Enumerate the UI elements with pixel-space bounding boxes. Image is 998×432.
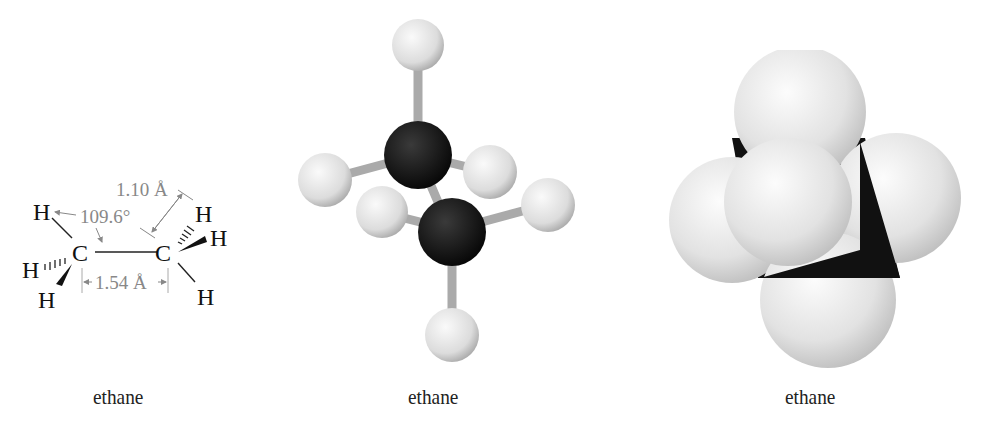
hydrogen-atom	[463, 145, 517, 199]
carbon-label-1: C	[72, 240, 88, 266]
ch-bond-length-label: 1.10 Å	[116, 179, 168, 200]
structural-formula-panel: H C C H H H H H 109.6° 1.10 Å 1.54 Å	[0, 160, 250, 320]
hydrogen-label: H	[210, 225, 227, 251]
caption-ball-and-stick: ethane	[408, 385, 458, 410]
bond-angle-label: 109.6°	[80, 206, 130, 227]
hydrogen-label: H	[38, 287, 55, 313]
hydrogen-atom	[521, 178, 575, 232]
hydrogen-label: H	[197, 284, 214, 310]
carbon-label-2: C	[155, 240, 171, 266]
hydrogen-label: H	[22, 257, 39, 283]
hydrogen-label: H	[195, 201, 212, 227]
space-filling-panel	[660, 50, 980, 380]
ethane-space-filling-model	[660, 50, 980, 380]
hydrogen-label: H	[33, 199, 50, 225]
ethane-structural-formula: H C C H H H H H 109.6° 1.10 Å 1.54 Å	[0, 160, 250, 320]
carbon-atom	[384, 121, 452, 189]
cc-bond-length-label: 1.54 Å	[95, 272, 147, 293]
carbon-atom	[418, 198, 486, 266]
hydrogen-atom	[392, 19, 444, 71]
hydrogen-atom	[356, 186, 408, 238]
caption-structural-formula: ethane	[93, 385, 143, 410]
hydrogen-atom	[724, 138, 852, 266]
hydrogen-atom	[298, 153, 352, 207]
hydrogen-atom	[425, 308, 479, 362]
ethane-ball-and-stick-model	[280, 0, 600, 380]
ball-and-stick-panel	[280, 0, 600, 380]
caption-space-filling: ethane	[785, 385, 835, 410]
